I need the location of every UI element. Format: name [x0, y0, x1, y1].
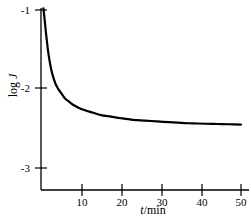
y-tick-label-minus1: -1	[12, 5, 30, 16]
x-axis-label-unit: /min	[144, 203, 166, 217]
data-series-curve	[43, 8, 241, 124]
y-axis-label-prefix: log	[6, 79, 20, 97]
chart-figure: -1 -2 -3 10 20 30 40 50 log J t/min	[0, 0, 251, 222]
x-axis-label: t/min	[118, 203, 188, 218]
y-tick-label-minus3: -3	[12, 163, 30, 174]
y-axis-label: log J	[6, 60, 21, 112]
y-axis-label-variable: J	[6, 74, 20, 79]
x-tick-label-40: 40	[190, 197, 214, 208]
plot-canvas	[0, 0, 251, 222]
x-tick-label-50: 50	[229, 197, 251, 208]
x-tick-label-10: 10	[70, 197, 94, 208]
